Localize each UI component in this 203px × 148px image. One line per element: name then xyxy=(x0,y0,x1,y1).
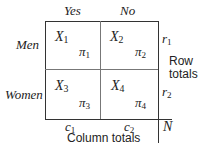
row-header-men: Men xyxy=(16,37,39,53)
row-total-1: r1 xyxy=(162,31,172,47)
row-header-women: Women xyxy=(5,87,43,103)
column-totals-label: Column totals xyxy=(67,131,140,145)
row-totals-label-2: totals xyxy=(169,67,198,81)
cell-2-probability: π2 xyxy=(135,44,146,60)
cell-4-probability: π4 xyxy=(135,95,146,111)
table-row-divider xyxy=(45,69,158,70)
column-header-no: No xyxy=(120,3,135,19)
table-column-divider xyxy=(100,21,101,119)
row-totals-label: Row xyxy=(169,54,193,68)
cell-4-count: X4 xyxy=(111,78,124,94)
column-header-yes: Yes xyxy=(64,3,81,19)
cell-2-count: X2 xyxy=(110,29,123,45)
cell-3-probability: π3 xyxy=(79,95,90,111)
cell-1-count: X1 xyxy=(55,29,68,45)
cell-1-probability: π1 xyxy=(79,44,90,60)
table-left-border xyxy=(45,21,46,119)
table-right-border xyxy=(158,21,159,143)
grand-total: N xyxy=(163,119,172,135)
table-top-border xyxy=(45,21,159,22)
row-total-2: r2 xyxy=(162,84,172,100)
cell-3-count: X3 xyxy=(55,78,68,94)
